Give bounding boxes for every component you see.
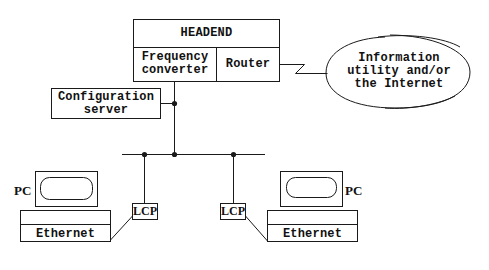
headend-title: HEADEND bbox=[134, 27, 279, 39]
wan-link-lightning bbox=[280, 65, 328, 74]
config-server-line2: server bbox=[52, 104, 160, 117]
right-pc-screen bbox=[287, 178, 337, 198]
right-pc-label: PC bbox=[345, 184, 362, 197]
left-lcp-cable bbox=[111, 216, 133, 240]
junction-dot-left bbox=[142, 152, 147, 157]
right-lcp-label: LCP bbox=[220, 205, 246, 217]
junction-dot-right bbox=[231, 152, 236, 157]
right-lcp-cable bbox=[246, 216, 268, 241]
internet-ellipse-overlap-bottom bbox=[385, 96, 455, 108]
right-pc-monitor bbox=[281, 172, 343, 207]
router-label: Router bbox=[217, 58, 279, 70]
internet-label: Information utility and/or the Internet bbox=[335, 52, 463, 91]
network-diagram: HEADEND Frequency converter Router Infor… bbox=[0, 0, 489, 270]
right-ethernet-label: Ethernet bbox=[268, 228, 357, 240]
left-pc-label: PC bbox=[14, 184, 31, 197]
left-lcp-label: LCP bbox=[132, 205, 158, 217]
junction-dot-trunk bbox=[172, 152, 177, 157]
left-pc-monitor bbox=[36, 172, 98, 207]
left-ethernet-label: Ethernet bbox=[21, 228, 110, 240]
frequency-converter-line2: converter bbox=[134, 64, 216, 77]
internet-line3: the Internet bbox=[335, 78, 463, 91]
frequency-converter-label: Frequency converter bbox=[134, 51, 216, 77]
junction-dot-config bbox=[172, 101, 177, 106]
left-pc-screen bbox=[41, 178, 93, 200]
config-server-label: Configuration server bbox=[52, 91, 160, 117]
